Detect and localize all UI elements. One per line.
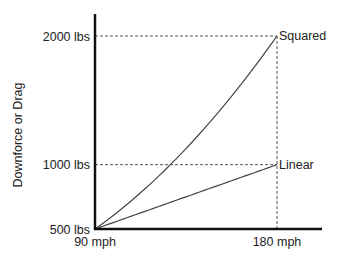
series-label-linear: Linear	[279, 158, 314, 172]
x-tick-labels: 90 mph180 mph	[74, 235, 301, 249]
reference-lines	[95, 36, 277, 229]
series-labels: SquaredLinear	[279, 29, 326, 172]
y-tick-label: 1000 lbs	[43, 158, 90, 172]
y-tick-label: 2000 lbs	[43, 30, 90, 44]
series-label-squared: Squared	[279, 29, 326, 43]
x-tick-label: 180 mph	[253, 235, 302, 249]
series-line-squared	[95, 36, 277, 229]
y-tick-labels: 500 lbs1000 lbs2000 lbs	[43, 30, 90, 237]
series-line-linear	[95, 165, 277, 229]
series-group	[95, 36, 277, 229]
y-axis-label: Downforce or Drag	[11, 83, 25, 188]
x-tick-label: 90 mph	[74, 235, 116, 249]
chart: 500 lbs1000 lbs2000 lbs 90 mph180 mph Sq…	[0, 0, 342, 261]
